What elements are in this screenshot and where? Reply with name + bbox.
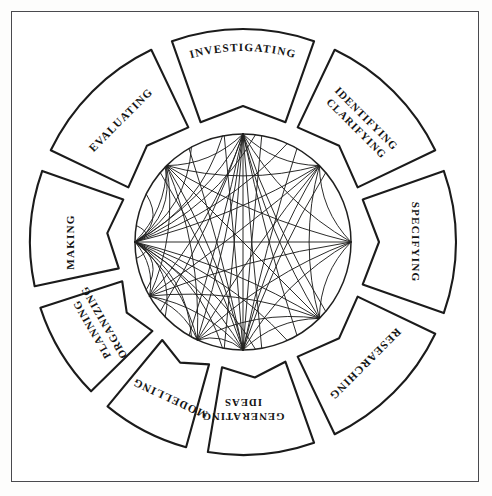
chord-link <box>243 134 319 318</box>
segment-label-specifying: SPECIFYING <box>410 202 422 283</box>
chord-link <box>243 166 319 350</box>
chord-link <box>149 294 319 318</box>
chord-link <box>243 134 351 242</box>
chord-network <box>135 134 351 350</box>
wheel-segment-making[interactable] <box>30 171 123 286</box>
chord-link <box>167 134 243 166</box>
chord-link <box>149 134 243 296</box>
figure-canvas: INVESTIGATINGIDENTIFYINGCLARIFYINGSPECIF… <box>0 0 492 496</box>
wheel-segment-specifying[interactable] <box>363 171 456 313</box>
chord-link <box>149 242 351 296</box>
chord-link <box>319 166 351 242</box>
segment-label-making: MAKING <box>64 214 76 269</box>
design-process-wheel: INVESTIGATINGIDENTIFYINGCLARIFYINGSPECIF… <box>0 0 492 496</box>
